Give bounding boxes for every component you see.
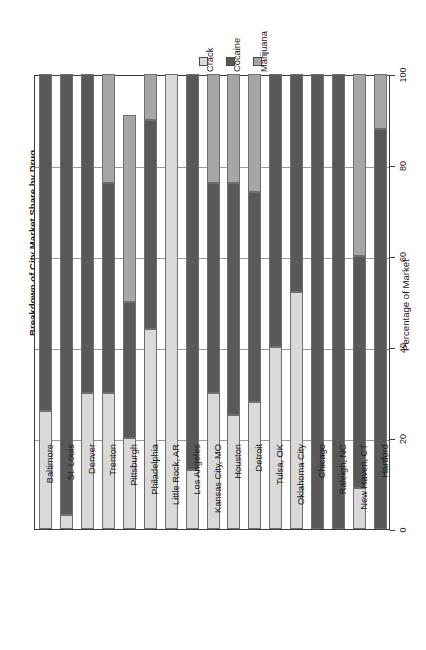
bar-segment-cocaine[interactable] <box>144 120 157 329</box>
bar-segment-marijuana[interactable] <box>248 74 261 192</box>
bar-segment-marijuana[interactable] <box>227 74 240 183</box>
category-label: Hartford <box>379 444 392 540</box>
axis-tick-label: 0 <box>397 517 409 543</box>
legend-item-crack[interactable]: Crack <box>196 4 224 66</box>
legend: CrackCocaineMarijuana <box>196 4 296 66</box>
bar-segment-cocaine[interactable] <box>81 74 94 393</box>
axis-tick-label: 40 <box>397 335 409 361</box>
category-label: Pittsburgh <box>128 444 141 540</box>
category-label: Tulsa, OK <box>274 444 287 540</box>
bar-segment-cocaine[interactable] <box>207 183 220 392</box>
axis-tick-mark <box>390 75 395 76</box>
value-axis-title: Percentage of Market <box>398 215 414 395</box>
axis-tick-mark <box>390 439 395 440</box>
bar-segment-cocaine[interactable] <box>290 74 303 292</box>
bar-segment-cocaine[interactable] <box>39 74 52 411</box>
legend-label: Cocaine <box>230 20 244 72</box>
category-label: St. Louis <box>65 444 78 540</box>
bar-segment-marijuana[interactable] <box>207 74 220 183</box>
bar-segment-cocaine[interactable] <box>248 192 261 401</box>
axis-tick-mark <box>390 348 395 349</box>
category-label: Baltimore <box>44 444 57 540</box>
bar-segment-cocaine[interactable] <box>102 183 115 392</box>
category-label: New Haven, CT <box>358 444 371 540</box>
category-label: Los Angeles <box>191 444 204 540</box>
chart-figure: Breakdown of City Market Share by Drug P… <box>0 0 426 650</box>
bar-segment-marijuana[interactable] <box>374 74 387 129</box>
category-label: Raleigh, NC <box>337 444 350 540</box>
bar-segment-marijuana[interactable] <box>102 74 115 183</box>
axis-tick-label: 20 <box>397 426 409 452</box>
legend-item-cocaine[interactable]: Cocaine <box>223 4 251 66</box>
bar-segment-cocaine[interactable] <box>227 183 240 415</box>
axis-tick-mark <box>390 257 395 258</box>
bar-segment-cocaine[interactable] <box>269 74 282 347</box>
category-label: Detroit <box>253 444 266 540</box>
category-label: Oklahoma City <box>295 444 308 540</box>
category-label: Chicago <box>316 444 329 540</box>
bar-segment-cocaine[interactable] <box>123 302 136 439</box>
axis-tick-mark <box>390 166 395 167</box>
axis-tick-label: 100 <box>397 62 409 88</box>
legend-label: Crack <box>203 20 217 72</box>
axis-tick-label: 60 <box>397 244 409 270</box>
category-label: Philadelphia <box>149 444 162 540</box>
category-label: Denver <box>86 444 99 540</box>
legend-item-marijuana[interactable]: Marijuana <box>250 4 278 66</box>
category-label: Trenton <box>107 444 120 540</box>
category-label: Kansas City, MO <box>212 444 225 540</box>
bar-segment-marijuana[interactable] <box>144 74 157 120</box>
bar-segment-cocaine[interactable] <box>186 74 199 470</box>
category-label: Little Rock, AR <box>170 444 183 540</box>
bar-segment-marijuana[interactable] <box>353 74 366 256</box>
category-label: Houston <box>232 444 245 540</box>
axis-tick-label: 80 <box>397 153 409 179</box>
bar-segment-marijuana[interactable] <box>123 115 136 302</box>
legend-label: Marijuana <box>257 20 271 72</box>
